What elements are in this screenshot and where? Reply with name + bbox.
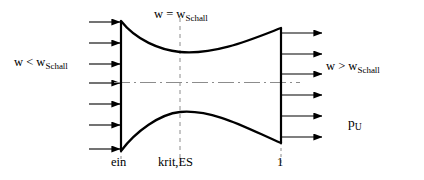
upper-wall-contour <box>121 21 281 52</box>
exit-flow-relation: > <box>338 59 345 73</box>
throat-flow-label: w = wSchall <box>154 8 208 21</box>
exit-flow-arrows <box>282 33 322 137</box>
ambient-pressure-label: pU <box>348 116 362 130</box>
inlet-flow-reference-subscript: Schall <box>45 61 68 71</box>
exit-flow-reference-subscript: Schall <box>357 65 380 75</box>
station-label-krit-es: krit,ES <box>158 156 193 169</box>
inlet-flow-symbol: w <box>14 55 23 69</box>
nozzle-diagram: w < wSchall w = wSchall w > wSchall pU e… <box>0 0 424 180</box>
exit-flow-symbol: w <box>326 59 335 73</box>
throat-flow-relation: = <box>166 7 173 21</box>
throat-flow-symbol: w <box>154 7 163 21</box>
lower-wall-contour <box>121 112 281 151</box>
station-label-exit: 1 <box>277 156 283 169</box>
inlet-flow-label: w < wSchall <box>14 56 68 69</box>
inlet-flow-relation: < <box>26 55 33 69</box>
inlet-flow-arrows <box>89 22 120 149</box>
exit-flow-label: w > wSchall <box>326 60 380 73</box>
nozzle-drawing <box>0 0 424 180</box>
ambient-pressure-symbol: p <box>348 115 355 130</box>
ambient-pressure-subscript: U <box>355 121 362 132</box>
station-label-ein: ein <box>111 156 126 169</box>
throat-flow-reference-subscript: Schall <box>185 13 208 23</box>
